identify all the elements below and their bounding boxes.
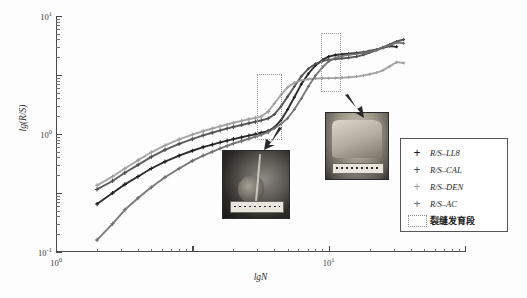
data-point-marker [247, 121, 251, 125]
core-rock-body-right [332, 120, 382, 158]
data-point-marker [231, 125, 235, 129]
data-point-marker [240, 139, 244, 143]
arrow-to-right-core-icon [341, 93, 365, 119]
legend-item-5[interactable]: 裂缝发育段 [401, 212, 507, 229]
data-point-marker [347, 76, 350, 79]
legend-item-1[interactable]: +R/S–LL8 [401, 144, 507, 161]
data-point-marker [201, 129, 205, 133]
x-tick-label: 100 [50, 256, 62, 268]
data-point-marker [225, 139, 229, 143]
data-point-marker [240, 123, 244, 127]
scale-bar-left [230, 201, 285, 212]
legend-item-3[interactable]: +R/S–DEN [401, 178, 507, 195]
y-tick-label: 100 [40, 128, 52, 140]
legend-label: R/S–LL8 [428, 148, 460, 158]
plus-marker-icon: + [406, 147, 428, 159]
legend-label: 裂缝发育段 [428, 214, 475, 227]
plus-marker-icon: + [406, 164, 428, 176]
data-point-marker [210, 143, 214, 147]
data-point-marker [218, 124, 222, 128]
data-point-marker [225, 126, 229, 130]
legend-label: R/S–DEN [428, 182, 463, 192]
x-tick-major: 103 [465, 246, 466, 252]
data-point-marker [247, 117, 251, 121]
core-photo-left [222, 150, 290, 219]
data-point-marker [218, 140, 222, 144]
plus-marker-icon: + [406, 181, 428, 193]
plus-marker-icon: + [406, 198, 428, 210]
data-point-marker [225, 122, 229, 126]
data-point-marker [210, 126, 214, 130]
scale-bar-right [332, 163, 384, 174]
data-point-marker [240, 135, 244, 139]
arrow-to-left-core-icon [262, 126, 286, 152]
legend-item-2[interactable]: +R/S–CAL [401, 161, 507, 178]
y-axis-title: lg(R/S) [18, 105, 28, 132]
data-point-marker [218, 128, 222, 132]
legend-label: R/S–AC [428, 199, 457, 209]
data-point-marker [231, 121, 235, 125]
x-tick-label: 101 [323, 256, 335, 268]
legend-item-4[interactable]: +R/S–AC [401, 195, 507, 212]
y-tick-label: 101 [40, 10, 52, 22]
core-photo-right [325, 112, 389, 180]
legend: +R/S–LL8+R/S–CAL+R/S–DEN+R/S–AC裂缝发育段 [400, 138, 508, 232]
y-tick-major: 10-3 [56, 252, 62, 253]
fracture-zone-box-2 [321, 33, 341, 93]
legend-label: R/S–CAL [428, 165, 462, 175]
chart-figure: lg(R/S) lgN 10110010-110-210-3 100101102… [0, 0, 527, 298]
data-point-marker [210, 131, 214, 135]
core-rock-body-left [238, 176, 264, 203]
x-axis-title: lgN [56, 272, 465, 282]
data-point-marker [231, 137, 235, 141]
dotted-rect-swatch [406, 215, 428, 227]
data-point-marker [240, 119, 244, 123]
